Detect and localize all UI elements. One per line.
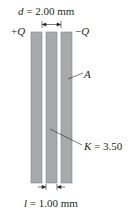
separation-dimension-arrow <box>42 21 61 28</box>
charge-left-symbol: Q <box>17 25 25 37</box>
thickness-dimension-arrow <box>38 184 65 190</box>
thickness-symbol: l <box>24 197 27 209</box>
dielectric-constant-label: K = 3.50 <box>84 140 122 152</box>
right-plate <box>61 32 72 183</box>
separation-symbol: d <box>18 5 24 17</box>
separation-label: d = 2.00 mm <box>18 5 74 17</box>
dielectric-slab <box>46 32 57 183</box>
charge-left-label: +Q <box>11 25 25 37</box>
charge-right-symbol: Q <box>81 25 89 37</box>
left-plate <box>31 32 42 183</box>
thickness-label: l = 1.00 mm <box>24 197 78 209</box>
dielectric-value: = 3.50 <box>94 140 122 152</box>
separation-value: = 2.00 mm <box>26 5 74 17</box>
dielectric-symbol: K <box>84 140 91 152</box>
area-label: A <box>84 68 91 80</box>
charge-right-label: −Q <box>75 25 89 37</box>
thickness-value: = 1.00 mm <box>30 197 78 209</box>
